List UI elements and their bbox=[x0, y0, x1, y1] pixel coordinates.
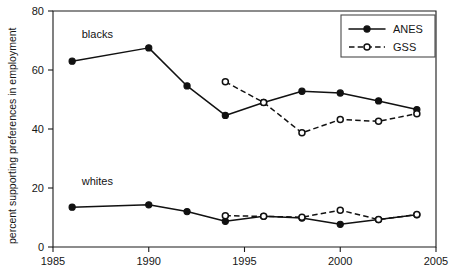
data-point-blacks-ANES bbox=[337, 90, 343, 96]
group-label-blacks: blacks bbox=[82, 28, 114, 40]
x-tick-label: 2000 bbox=[328, 255, 352, 267]
data-point-whites-ANES bbox=[146, 202, 152, 208]
y-tick-label: 80 bbox=[32, 5, 44, 17]
y-tick-label: 0 bbox=[38, 241, 44, 253]
data-point-whites-ANES bbox=[184, 209, 190, 215]
series-whites-GSS bbox=[222, 207, 420, 222]
data-point-blacks-ANES bbox=[375, 98, 381, 104]
data-point-blacks-GSS bbox=[414, 111, 420, 117]
data-point-blacks-ANES bbox=[184, 83, 190, 89]
series-line-whites-ANES bbox=[72, 205, 417, 224]
data-point-whites-GSS bbox=[222, 213, 228, 219]
legend-label-GSS: GSS bbox=[393, 41, 416, 53]
data-point-blacks-GSS bbox=[337, 117, 343, 123]
legend-label-ANES: ANES bbox=[393, 23, 423, 35]
data-point-whites-GSS bbox=[337, 207, 343, 213]
legend: ANESGSS bbox=[341, 15, 435, 57]
series-line-blacks-ANES bbox=[72, 48, 417, 116]
y-axis-title: percent supporting preferences in employ… bbox=[6, 27, 18, 244]
group-annotations: blackswhites bbox=[81, 28, 114, 188]
data-point-blacks-ANES bbox=[146, 45, 152, 51]
series-blacks-GSS bbox=[222, 79, 420, 136]
x-tick-label: 1995 bbox=[232, 255, 256, 267]
data-point-blacks-GSS bbox=[376, 118, 382, 124]
data-series-group bbox=[69, 45, 420, 228]
x-tick-label: 1985 bbox=[41, 255, 65, 267]
data-point-blacks-ANES bbox=[222, 112, 228, 118]
data-point-whites-ANES bbox=[69, 204, 75, 210]
data-point-blacks-GSS bbox=[222, 79, 228, 85]
data-point-whites-GSS bbox=[414, 212, 420, 218]
x-axis-ticks: 19851990199520002005 bbox=[41, 247, 448, 267]
legend-box bbox=[341, 15, 435, 57]
y-tick-label: 40 bbox=[32, 123, 44, 135]
line-chart: percent supporting preferences in employ… bbox=[0, 0, 451, 279]
data-point-whites-GSS bbox=[261, 213, 267, 219]
x-tick-label: 1990 bbox=[137, 255, 161, 267]
y-axis-ticks: 020406080 bbox=[32, 5, 53, 253]
data-point-blacks-ANES bbox=[69, 58, 75, 64]
data-point-blacks-ANES bbox=[299, 88, 305, 94]
group-label-whites: whites bbox=[81, 175, 114, 187]
series-line-blacks-GSS bbox=[225, 82, 417, 133]
data-point-whites-ANES bbox=[337, 221, 343, 227]
chart-figure: percent supporting preferences in employ… bbox=[0, 0, 451, 279]
data-point-whites-GSS bbox=[299, 214, 305, 220]
y-tick-label: 60 bbox=[32, 64, 44, 76]
data-point-whites-GSS bbox=[376, 217, 382, 223]
legend-marker-ANES bbox=[364, 26, 370, 32]
data-point-blacks-GSS bbox=[299, 130, 305, 136]
y-axis-title-group: percent supporting preferences in employ… bbox=[6, 27, 18, 244]
x-tick-label: 2005 bbox=[424, 255, 448, 267]
data-point-blacks-GSS bbox=[261, 99, 267, 105]
y-tick-label: 20 bbox=[32, 182, 44, 194]
series-whites-ANES bbox=[69, 202, 420, 228]
legend-marker-GSS bbox=[364, 44, 370, 50]
